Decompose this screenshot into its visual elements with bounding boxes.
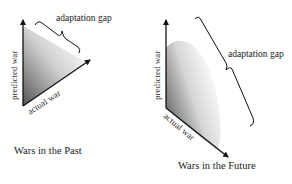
diagram-future: adaptation gap predicted war actual war … (146, 0, 292, 184)
caption-past: Wars in the Past (14, 145, 82, 156)
adaptation-gap-label: adaptation gap (56, 13, 112, 23)
diagram-past: adaptation gap predicted war actual war … (0, 0, 146, 184)
predicted-war-label: predicted war (152, 51, 162, 100)
predicted-war-label: predicted war (9, 51, 19, 100)
diagram-past-graphic: adaptation gap predicted war actual war (0, 0, 146, 184)
adaptation-gap-label: adaptation gap (228, 49, 284, 59)
diagram-future-graphic: adaptation gap predicted war actual war (146, 0, 292, 184)
caption-future: Wars in the Future (178, 160, 256, 171)
